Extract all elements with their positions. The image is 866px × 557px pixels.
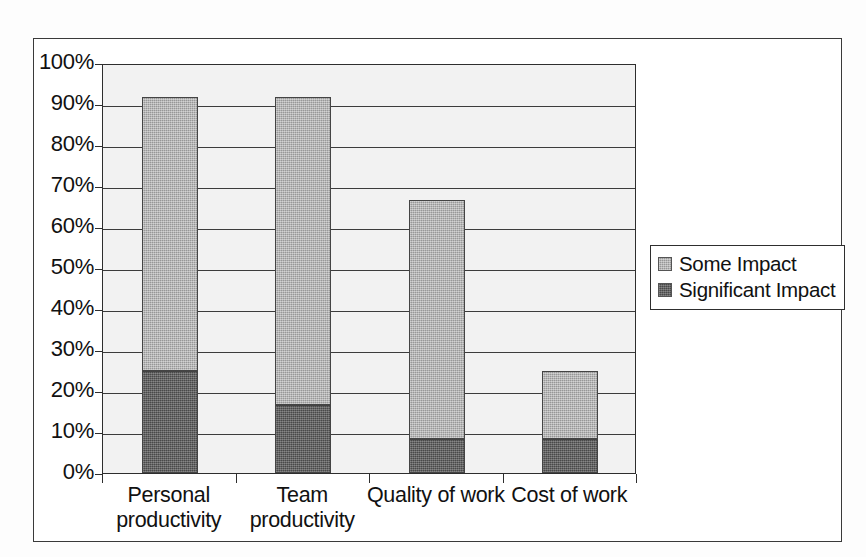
bar-stack (275, 63, 331, 473)
y-axis-tick-mark (95, 187, 102, 188)
bar-segment-some-impact (142, 97, 198, 370)
y-axis-tick-label: 30% (51, 336, 94, 362)
legend-swatch-some-impact (658, 257, 672, 271)
x-axis-category-line1: Personal (128, 483, 210, 507)
legend-label-some-impact: Some Impact (679, 252, 796, 276)
bar-segment-significant-impact (142, 371, 198, 474)
legend-label-significant-impact: Significant Impact (679, 278, 835, 302)
y-axis-tick-mark (95, 269, 102, 270)
y-axis-tick-mark (95, 351, 102, 352)
x-axis-category-label: Cost of work (491, 483, 649, 508)
y-axis-tick-label: 70% (51, 172, 94, 198)
bar-segment-some-impact (409, 200, 465, 439)
y-axis-tick-mark (95, 105, 102, 106)
y-axis-labels: 0%10%20%30%40%50%60%70%80%90%100% (0, 0, 94, 557)
y-axis-tick-label: 60% (51, 213, 94, 239)
x-axis-tick-mark (636, 474, 637, 483)
y-axis-tick-label: 0% (63, 459, 94, 485)
bar-segment-some-impact (542, 371, 598, 439)
bar-stack (409, 63, 465, 473)
y-axis-tick-mark (95, 474, 102, 475)
x-axis-tick-mark (236, 474, 237, 483)
x-axis-category-line1: Team (277, 483, 328, 507)
y-axis-tick-label: 90% (51, 90, 94, 116)
legend-item-significant-impact: Significant Impact (658, 277, 835, 303)
y-axis-tick-mark (95, 433, 102, 434)
plot-area (102, 64, 636, 474)
y-axis-tick-label: 40% (51, 295, 94, 321)
y-axis-tick-label: 20% (51, 377, 94, 403)
bar-segment-significant-impact (409, 439, 465, 473)
y-axis-tick-label: 80% (51, 131, 94, 157)
y-axis-tick-mark (95, 146, 102, 147)
y-axis-tick-mark (95, 228, 102, 229)
chart-legend: Some Impact Significant Impact (650, 245, 845, 310)
y-axis-tick-mark (95, 64, 102, 65)
bar-segment-significant-impact (275, 405, 331, 473)
chart-figure: 0%10%20%30%40%50%60%70%80%90%100% Some I… (0, 0, 866, 557)
legend-swatch-significant-impact (658, 283, 672, 297)
y-axis-tick-label: 100% (39, 49, 94, 75)
y-axis-tick-mark (95, 392, 102, 393)
y-axis-tick-label: 10% (51, 418, 94, 444)
x-axis-tick-mark (102, 474, 103, 483)
x-axis-tick-mark (369, 474, 370, 483)
x-axis-category-line2: productivity (224, 508, 382, 533)
x-axis-category-line1: Quality of work (367, 483, 505, 507)
bar-segment-significant-impact (542, 439, 598, 473)
y-axis-tick-label: 50% (51, 254, 94, 280)
x-axis-tick-mark (503, 474, 504, 483)
y-axis-tick-mark (95, 310, 102, 311)
x-axis-category-line1: Cost of work (511, 483, 627, 507)
bar-stack (542, 63, 598, 473)
bar-segment-some-impact (275, 97, 331, 405)
bar-stack (142, 63, 198, 473)
legend-item-some-impact: Some Impact (658, 251, 835, 277)
